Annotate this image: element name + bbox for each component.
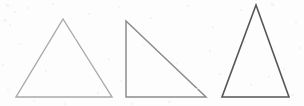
diagram-background xyxy=(0,0,304,106)
triangles-diagram xyxy=(0,0,304,106)
figure-canvas xyxy=(0,0,304,106)
